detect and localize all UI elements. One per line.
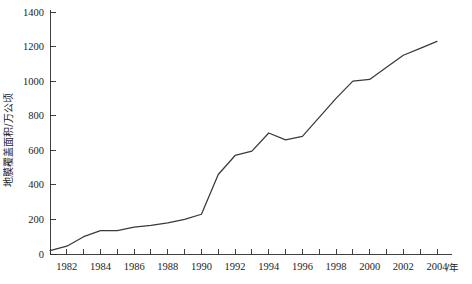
x-tick-label-1988: 1988 [157, 261, 178, 272]
x-tick-label-1990: 1990 [191, 261, 212, 272]
x-tick-label-2004: 2004 [427, 261, 449, 272]
y-tick-label-800: 800 [28, 110, 44, 121]
y-tick-label-600: 600 [28, 145, 44, 156]
y-tick-label-200: 200 [28, 214, 44, 225]
x-axis-unit-label: /年 [446, 262, 459, 273]
y-axis: 0200400600800100012001400 [23, 7, 56, 260]
y-tick-label-0: 0 [39, 249, 44, 260]
y-axis-tick-labels: 0200400600800100012001400 [23, 7, 44, 260]
x-tick-label-1986: 1986 [124, 261, 145, 272]
x-tick-label-1982: 1982 [56, 261, 77, 272]
x-axis-ticks [50, 249, 437, 254]
x-tick-label-1994: 1994 [258, 261, 280, 272]
y-axis-ticks [50, 12, 56, 254]
x-axis: 1982198419861988199019921994199619982000… [50, 249, 452, 272]
chart-figure: 0200400600800100012001400 19821984198619… [0, 0, 472, 284]
data-line-series-0 [50, 41, 437, 250]
data-series-group [50, 41, 437, 250]
x-tick-label-2002: 2002 [393, 261, 414, 272]
x-tick-label-1998: 1998 [326, 261, 347, 272]
y-tick-label-1200: 1200 [23, 41, 44, 52]
y-tick-label-400: 400 [28, 179, 44, 190]
x-axis-tick-labels: 1982198419861988199019921994199619982000… [56, 261, 448, 272]
x-tick-label-1984: 1984 [90, 261, 112, 272]
x-tick-label-1992: 1992 [225, 261, 246, 272]
line-chart: 0200400600800100012001400 19821984198619… [0, 0, 472, 284]
x-tick-label-1996: 1996 [292, 261, 313, 272]
x-tick-label-2000: 2000 [359, 261, 380, 272]
y-axis-title: 地膜覆盖面积/万公顷 [2, 93, 14, 186]
y-tick-label-1000: 1000 [23, 76, 44, 87]
y-tick-label-1400: 1400 [23, 7, 44, 18]
